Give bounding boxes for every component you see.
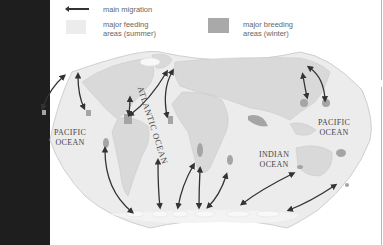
label-line: PACIFIC [54,128,86,138]
label-line: PACIFIC [318,118,350,128]
indian-ocean-label: INDIAN OCEAN [259,150,289,170]
label-line: INDIAN [259,150,289,160]
label-line: OCEAN [318,128,350,138]
pacific-ocean-east-label: PACIFIC OCEAN [318,118,350,138]
pacific-ocean-west-label: PACIFIC OCEAN [54,128,86,148]
label-line: OCEAN [259,160,289,170]
label-line: OCEAN [54,138,86,148]
